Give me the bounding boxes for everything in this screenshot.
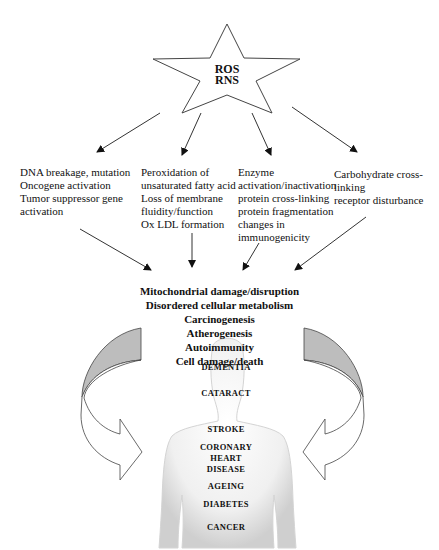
target-line: immunogenicity xyxy=(238,231,336,244)
target-line: protein cross-linking xyxy=(238,192,336,205)
disease-cancer: CANCER xyxy=(0,522,439,533)
rns-label: RNS xyxy=(207,75,247,86)
target-line: DNA breakage, mutation xyxy=(20,166,130,179)
effect-item: Carcinogenesis xyxy=(0,312,439,326)
target-line: Loss of membrane xyxy=(141,192,236,205)
target-line: activation xyxy=(20,205,130,218)
target-line: Carbohydrate cross- xyxy=(334,168,423,181)
target-protein: Enzyme activation/inactivation protein c… xyxy=(238,166,336,244)
target-line: protein fragmentation xyxy=(238,205,336,218)
target-lipid: Peroxidation of unsaturated fatty acid L… xyxy=(141,166,236,231)
target-line: unsaturated fatty acid xyxy=(141,179,236,192)
effect-item: Autoimmunity xyxy=(0,340,439,354)
effect-item: Mitochondrial damage/disruption xyxy=(0,284,439,298)
target-line: Tumor suppressor gene xyxy=(20,192,130,205)
target-line: activation/inactivation xyxy=(238,179,336,192)
disease-dementia: DEMENTIA xyxy=(0,362,439,373)
target-carbohydrate: Carbohydrate cross- linking receptor dis… xyxy=(334,168,423,207)
effect-item: Atherogenesis xyxy=(0,326,439,340)
disease-coronary: CORONARY xyxy=(0,442,439,453)
star-label: ROS RNS xyxy=(207,64,247,86)
disease-disease: DISEASE xyxy=(0,464,439,475)
star-arrows xyxy=(97,107,357,155)
effects-list: Mitochondrial damage/disruption Disorder… xyxy=(0,284,439,368)
disease-cataract: CATARACT xyxy=(0,388,439,399)
disease-stroke: STROKE xyxy=(0,424,439,435)
disease-ageing: AGEING xyxy=(0,481,439,492)
target-line: Ox LDL formation xyxy=(141,218,236,231)
target-dna: DNA breakage, mutation Oncogene activati… xyxy=(20,166,130,218)
target-line: linking xyxy=(334,181,423,194)
disease-diabetes: DIABETES xyxy=(0,499,439,510)
target-line: changes in xyxy=(238,218,336,231)
target-line: receptor disturbance xyxy=(334,194,423,207)
target-line: Peroxidation of xyxy=(141,166,236,179)
target-line: fluidity/function xyxy=(141,205,236,218)
target-line: Oncogene activation xyxy=(20,179,130,192)
disease-heart: HEART xyxy=(0,453,439,464)
effect-item: Disordered cellular metabolism xyxy=(0,298,439,312)
target-line: Enzyme xyxy=(238,166,336,179)
